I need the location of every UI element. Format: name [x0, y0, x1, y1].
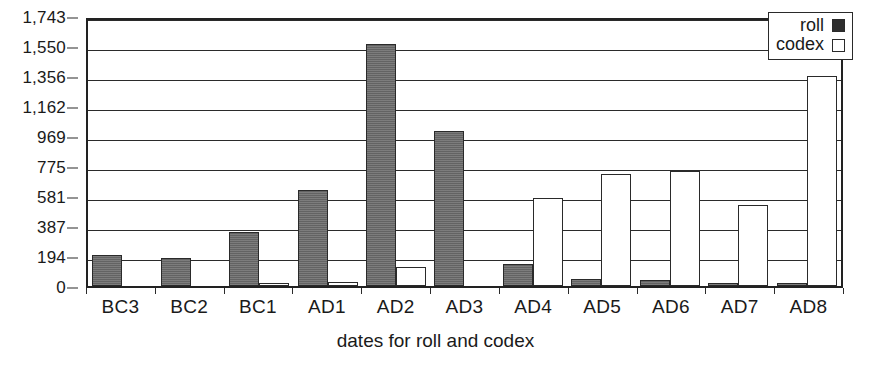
- x-axis-tick-label: BC3: [86, 296, 155, 318]
- y-axis-tick: [67, 18, 78, 19]
- x-axis-tick-label: AD3: [430, 296, 499, 318]
- x-axis-tick-label: BC1: [224, 296, 293, 318]
- x-axis-tick: [637, 288, 638, 294]
- y-axis: 01943875817759691,1621,3561,5501,743: [0, 18, 78, 288]
- y-axis-tick: [67, 257, 78, 258]
- bar-group: [430, 20, 498, 286]
- y-axis-tick: [67, 288, 78, 289]
- x-axis-labels: BC3BC2BC1AD1AD2AD3AD4AD5AD6AD7AD8: [86, 296, 843, 318]
- x-axis-tick: [430, 288, 431, 294]
- bar-roll-ad1: [298, 190, 328, 286]
- y-axis-tick: [67, 77, 78, 78]
- x-axis-tick: [568, 288, 569, 294]
- y-axis-tick-label: 1,162: [22, 98, 66, 118]
- bar-chart: 01943875817759691,1621,3561,5501,743 rol…: [0, 0, 871, 384]
- x-axis-tick-label: AD5: [568, 296, 637, 318]
- bar-group: [567, 20, 635, 286]
- legend-item-roll: roll: [776, 16, 845, 35]
- bar-groups: [88, 20, 841, 286]
- y-axis-tick-label: 0: [56, 278, 66, 298]
- bar-codex-ad1: [328, 282, 358, 286]
- x-axis-tick: [86, 288, 87, 294]
- y-axis-tick-label: 581: [37, 188, 66, 208]
- y-axis-tick: [67, 198, 78, 199]
- y-axis-tick: [67, 167, 78, 168]
- y-axis-tick: [67, 108, 78, 109]
- y-axis-tick-label: 969: [37, 128, 66, 148]
- bar-group: [704, 20, 772, 286]
- x-axis-ticks: [86, 288, 843, 295]
- bar-codex-ad7: [738, 205, 768, 286]
- empty-square-icon: [832, 39, 845, 52]
- bar-roll-ad6: [640, 280, 670, 286]
- x-axis-tick: [499, 288, 500, 294]
- legend-label-codex: codex: [776, 35, 824, 54]
- bar-group: [156, 20, 224, 286]
- bar-roll-bc1: [229, 232, 259, 286]
- x-axis-tick: [224, 288, 225, 294]
- y-axis-tick-label: 387: [37, 218, 66, 238]
- x-axis-tick-label: BC2: [155, 296, 224, 318]
- x-axis-tick-label: AD7: [705, 296, 774, 318]
- x-axis-tick-label: AD8: [774, 296, 843, 318]
- bar-codex-bc1: [259, 283, 289, 286]
- bar-group: [362, 20, 430, 286]
- bar-roll-ad5: [571, 279, 601, 286]
- x-axis-tick: [361, 288, 362, 294]
- x-axis-tick: [774, 288, 775, 294]
- bar-group: [88, 20, 156, 286]
- y-axis-tick-label: 775: [37, 158, 66, 178]
- bar-roll-bc2: [161, 258, 191, 286]
- bar-roll-ad3: [434, 131, 464, 286]
- y-axis-tick-label: 1,356: [22, 68, 66, 88]
- x-axis-tick: [155, 288, 156, 294]
- legend-label-roll: roll: [800, 16, 824, 35]
- plot-area: [86, 18, 843, 288]
- bar-codex-ad5: [601, 174, 631, 286]
- bar-group: [293, 20, 361, 286]
- bar-codex-ad4: [533, 198, 563, 286]
- bar-roll-ad7: [708, 283, 738, 286]
- x-axis-tick: [705, 288, 706, 294]
- x-axis-tick: [843, 288, 844, 294]
- x-axis-tick: [292, 288, 293, 294]
- y-axis-tick: [67, 47, 78, 48]
- bar-codex-ad6: [670, 171, 700, 286]
- x-axis-tick-label: AD1: [292, 296, 361, 318]
- bar-roll-ad4: [503, 264, 533, 286]
- bar-group: [636, 20, 704, 286]
- legend-item-codex: codex: [776, 35, 845, 54]
- y-axis-tick-label: 194: [37, 248, 66, 268]
- x-axis-title: dates for roll and codex: [0, 330, 871, 352]
- y-axis-tick-label: 1,743: [22, 8, 66, 28]
- y-axis-tick-label: 1,550: [22, 38, 66, 58]
- bar-group: [773, 20, 841, 286]
- bar-codex-ad8: [807, 76, 837, 286]
- x-axis-tick-label: AD2: [361, 296, 430, 318]
- bar-group: [499, 20, 567, 286]
- legend: roll codex: [768, 12, 853, 60]
- bar-roll-ad8: [777, 283, 807, 286]
- x-axis-tick-label: AD6: [637, 296, 706, 318]
- bar-codex-ad2: [396, 267, 426, 286]
- x-axis-tick-label: AD4: [499, 296, 568, 318]
- y-axis-tick: [67, 228, 78, 229]
- bar-roll-ad2: [366, 44, 396, 286]
- y-axis-tick: [67, 137, 78, 138]
- bar-group: [225, 20, 293, 286]
- bar-roll-bc3: [92, 255, 122, 286]
- filled-square-icon: [832, 19, 845, 32]
